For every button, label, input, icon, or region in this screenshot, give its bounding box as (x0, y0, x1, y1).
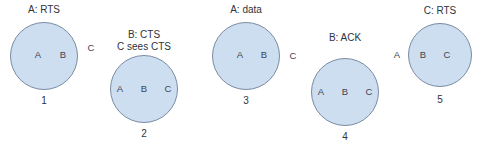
panel-5-event-label: C: RTS (424, 5, 457, 17)
panel-5-event-line: C: RTS (424, 5, 457, 17)
panel-5-step-number: 5 (437, 94, 443, 105)
panel-5-node-inside: B (420, 50, 426, 60)
panel-5-node-outside: A (394, 50, 400, 60)
panel-5-coverage-circle (408, 23, 472, 87)
panel-5-node-inside: C (444, 50, 451, 60)
maca-sequence-diagram: A: RTSABC1B: CTSC sees CTSABC2A: dataABC… (0, 0, 483, 146)
diagram-panel-5: C: RTSBCA5 (0, 0, 483, 146)
